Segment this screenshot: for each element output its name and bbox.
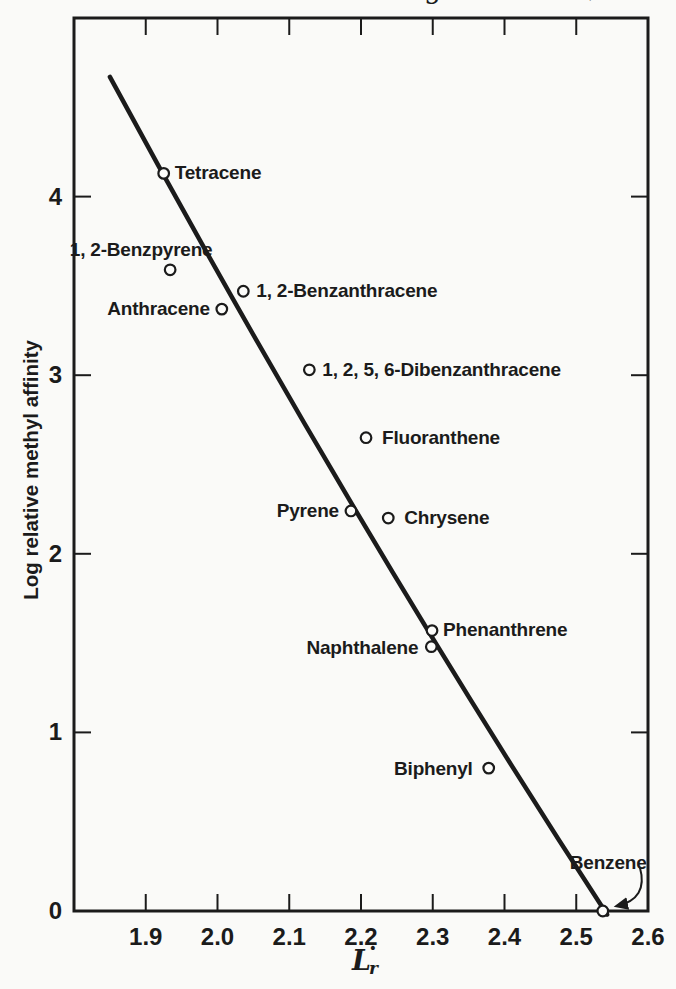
point-label-1-2-benzanthracene: 1, 2-Benzanthracene <box>256 280 437 301</box>
point-label-1-2-benzpyrene: 1, 2-Benzpyrene <box>70 239 213 260</box>
cropped-caption-fragment-right: ) <box>588 0 598 3</box>
scanned-figure-page: 1.92.02.12.22.32.42.52.601234Tetracene1,… <box>0 0 676 989</box>
x-tick-label: 2.4 <box>488 923 522 950</box>
x-tick-label: 2.3 <box>416 923 449 950</box>
point-label-fluoranthene: Fluoranthene <box>382 427 500 448</box>
fit-line <box>110 77 607 915</box>
x-axis-title-base: L <box>351 945 371 976</box>
data-point-chrysene <box>383 513 394 524</box>
data-point-benzene <box>597 906 608 917</box>
y-tick-label: 3 <box>49 361 62 388</box>
point-label-anthracene: Anthracene <box>107 298 210 319</box>
point-label-pyrene: Pyrene <box>277 500 339 521</box>
data-point-1-2-benzpyrene <box>165 265 176 276</box>
y-tick-label: 1 <box>49 718 62 745</box>
point-label-chrysene: Chrysene <box>404 507 489 528</box>
x-tick-label: 2.6 <box>631 923 664 950</box>
data-point-anthracene <box>217 304 228 315</box>
y-tick-label: 0 <box>49 897 62 924</box>
x-axis-title-radical-dot: · <box>369 935 377 961</box>
y-axis-title: Log relative methyl affinity <box>19 340 42 600</box>
point-label-naphthalene: Naphthalene <box>306 637 418 658</box>
data-point-fluoranthene <box>361 432 372 443</box>
x-axis-title-subscript: r <box>369 958 379 978</box>
x-tick-label: 2.0 <box>201 923 234 950</box>
plot-frame <box>74 18 648 911</box>
data-point-1-2-5-6-dibenzanthracene <box>304 365 315 376</box>
data-point-naphthalene <box>426 641 437 652</box>
data-point-1-2-benzanthracene <box>238 286 249 297</box>
data-point-biphenyl <box>483 763 494 774</box>
y-tick-label: 2 <box>49 540 62 567</box>
point-label-1-2-5-6-dibenzanthracene: 1, 2, 5, 6-Dibenzanthracene <box>322 359 561 380</box>
x-tick-label: 2.5 <box>560 923 593 950</box>
point-label-benzene: Benzene <box>570 852 647 873</box>
y-tick-label: 4 <box>49 183 63 210</box>
x-tick-label: 1.9 <box>129 923 162 950</box>
methyl-affinity-scatter-chart: 1.92.02.12.22.32.42.52.601234Tetracene1,… <box>0 0 676 989</box>
cropped-caption-fragment-left: g <box>424 0 441 4</box>
data-point-pyrene <box>346 506 357 517</box>
x-tick-label: 2.1 <box>273 923 306 950</box>
point-label-biphenyl: Biphenyl <box>394 758 473 779</box>
data-point-phenanthrene <box>427 625 438 636</box>
point-label-tetracene: Tetracene <box>175 162 262 183</box>
data-point-tetracene <box>158 168 169 179</box>
point-label-phenanthrene: Phenanthrene <box>443 619 567 640</box>
